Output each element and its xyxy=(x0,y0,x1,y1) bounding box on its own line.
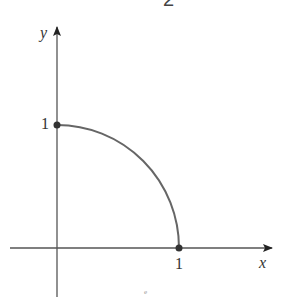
top-fragment-text: 2 xyxy=(163,0,174,9)
y-axis-label: y xyxy=(40,25,47,41)
x-tick-label-one: 1 xyxy=(175,256,183,272)
quarter-circle-arc xyxy=(57,125,179,248)
plot-svg xyxy=(0,0,281,307)
diagram-canvas: 2 y x 1 1 e xyxy=(0,0,281,307)
y-tick-label-one: 1 xyxy=(41,116,49,132)
point-0-1 xyxy=(54,122,61,129)
x-axis-label: x xyxy=(259,255,266,271)
point-1-0 xyxy=(176,245,183,252)
stray-mark: e xyxy=(144,289,147,296)
